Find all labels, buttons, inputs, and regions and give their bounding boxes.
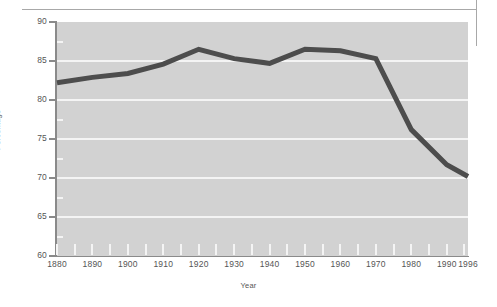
x-axis-tick-label: 1910 xyxy=(143,259,183,269)
x-axis-tick-label: 1880 xyxy=(37,259,77,269)
x-axis-minor-tick xyxy=(180,244,182,255)
x-axis-minor-tick xyxy=(162,244,164,255)
x-axis-minor-tick xyxy=(393,244,395,255)
y-axis-tick-label: 85 xyxy=(7,55,47,65)
x-axis-minor-tick xyxy=(286,244,288,255)
x-axis-minor-tick xyxy=(74,244,76,255)
x-axis-minor-tick xyxy=(304,244,306,255)
x-axis-minor-tick xyxy=(198,244,200,255)
y-axis-tick xyxy=(49,216,56,218)
x-axis-tick-label: 1996 xyxy=(448,259,488,269)
y-axis-title: Percentage xyxy=(0,110,2,150)
y-axis-minor-tick xyxy=(57,158,63,160)
y-axis-tick-label: 70 xyxy=(7,172,47,182)
x-axis-minor-tick xyxy=(428,244,430,255)
x-axis-minor-tick xyxy=(339,244,341,255)
x-axis-minor-tick xyxy=(233,244,235,255)
x-axis-minor-tick xyxy=(357,244,359,255)
x-axis-minor-tick xyxy=(446,244,448,255)
x-axis-line xyxy=(55,256,469,257)
y-axis-tick-label: 75 xyxy=(7,133,47,143)
x-axis-minor-tick xyxy=(269,244,271,255)
x-axis-tick-label: 1920 xyxy=(179,259,219,269)
y-axis-tick xyxy=(49,60,56,62)
y-axis-tick-label: 65 xyxy=(7,211,47,221)
x-axis-tick-label: 1970 xyxy=(356,259,396,269)
y-axis-tick xyxy=(49,138,56,140)
x-axis-tick-label: 1950 xyxy=(285,259,325,269)
gridline xyxy=(57,60,468,62)
x-axis-minor-tick xyxy=(91,244,93,255)
gridline xyxy=(57,138,468,140)
y-axis-tick xyxy=(49,99,56,101)
x-axis-tick-label: 1940 xyxy=(250,259,290,269)
x-axis-minor-tick xyxy=(463,244,465,255)
y-axis-minor-tick xyxy=(57,41,63,43)
gridline xyxy=(57,99,468,101)
x-axis-minor-tick xyxy=(375,244,377,255)
x-axis-minor-tick xyxy=(251,244,253,255)
x-axis-minor-tick xyxy=(322,244,324,255)
y-axis-tick xyxy=(49,177,56,179)
y-axis-tick-label: 80 xyxy=(7,94,47,104)
x-axis-minor-tick xyxy=(410,244,412,255)
x-axis-tick-label: 1900 xyxy=(108,259,148,269)
x-axis-tick-label: 1890 xyxy=(72,259,112,269)
x-axis-minor-tick xyxy=(145,244,147,255)
y-axis-tick xyxy=(49,21,56,23)
x-axis-minor-tick xyxy=(127,244,129,255)
x-axis-tick-label: 1930 xyxy=(214,259,254,269)
y-axis-minor-tick xyxy=(57,236,63,238)
y-axis-minor-tick xyxy=(57,119,63,121)
x-axis-title: Year xyxy=(0,281,497,290)
line-chart-figure: 60657075808590 1880189019001910192019301… xyxy=(0,0,497,307)
y-axis-tick-label: 90 xyxy=(7,16,47,26)
y-axis-tick xyxy=(49,255,56,257)
gridline xyxy=(57,216,468,218)
x-axis-tick-label: 1960 xyxy=(320,259,360,269)
x-axis-minor-tick xyxy=(215,244,217,255)
x-axis-minor-tick xyxy=(56,244,58,255)
x-axis-minor-tick xyxy=(109,244,111,255)
x-axis-tick-label: 1980 xyxy=(391,259,431,269)
y-axis-minor-tick xyxy=(57,80,63,82)
y-axis-minor-tick xyxy=(57,197,63,199)
gridline xyxy=(57,177,468,179)
